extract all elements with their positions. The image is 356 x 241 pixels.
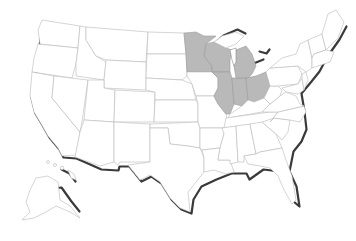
state-washington xyxy=(38,20,80,48)
state-maine xyxy=(322,10,344,50)
state-new-mexico xyxy=(114,122,150,165)
state-michigan-lower xyxy=(234,46,256,78)
state-indiana xyxy=(232,78,248,106)
state-oregon xyxy=(32,44,78,78)
state-north-dakota xyxy=(147,32,186,54)
us-map xyxy=(0,0,356,241)
state-kansas xyxy=(154,100,198,122)
state-alaska xyxy=(22,176,80,220)
state-pennsylvania xyxy=(266,66,302,86)
state-florida xyxy=(244,148,296,204)
state-south-dakota xyxy=(146,54,187,80)
state-colorado xyxy=(114,90,155,122)
state-wyoming xyxy=(104,60,146,90)
